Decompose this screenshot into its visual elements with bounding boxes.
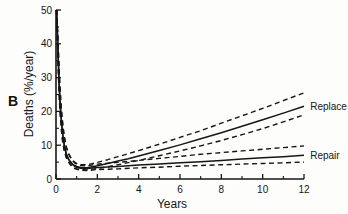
- y-tick-label: 20: [41, 106, 53, 117]
- x-tick-label: 2: [95, 184, 101, 195]
- x-tick-label: 6: [177, 184, 183, 195]
- y-tick-label: 30: [41, 72, 53, 83]
- y-tick-label: 10: [41, 140, 53, 151]
- annotation-repair: Repair: [310, 150, 340, 161]
- panel-label: B: [8, 93, 19, 109]
- hazard-line-chart: 02468101201020304050YearsDeaths (%/year)…: [0, 0, 348, 214]
- x-tick-label: 0: [53, 184, 59, 195]
- series-repair-lower-ci: [56, 10, 304, 171]
- x-tick-label: 4: [136, 184, 142, 195]
- y-axis-label: Deaths (%/year): [22, 51, 36, 138]
- series-group: [56, 10, 304, 171]
- x-axis-label: Years: [157, 197, 187, 211]
- series-repair-upper-ci: [57, 10, 304, 166]
- series-replace-lower-ci: [56, 10, 304, 170]
- annotation-replace: Replace: [310, 101, 347, 112]
- x-tick-label: 8: [219, 184, 225, 195]
- series-replace-estimate: [57, 10, 304, 168]
- axes-group: 02468101201020304050: [41, 5, 310, 196]
- figure-panel-b: B 02468101201020304050YearsDeaths (%/yea…: [0, 0, 348, 214]
- y-tick-label: 0: [46, 174, 52, 185]
- x-tick-label: 12: [298, 184, 310, 195]
- x-tick-label: 10: [257, 184, 269, 195]
- series-replace-upper-ci: [57, 10, 304, 165]
- y-tick-label: 40: [41, 38, 53, 49]
- y-tick-label: 50: [41, 5, 53, 16]
